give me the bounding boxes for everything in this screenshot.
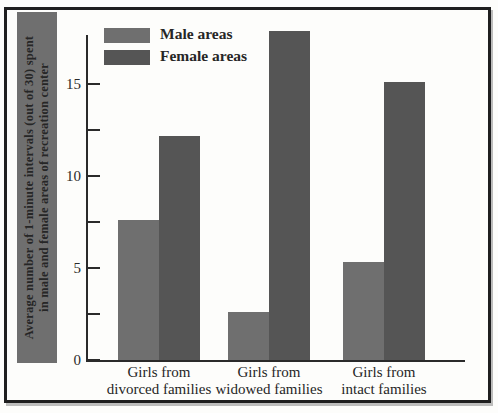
bar-male-areas-girls-from-intact-families <box>343 262 384 360</box>
y-axis-label-strip: Average number of 1-minute intervals (ou… <box>17 12 57 363</box>
y-axis-minor-tick-12.5 <box>88 129 100 131</box>
legend-swatch-female-areas <box>104 50 150 65</box>
y-axis-label: Average number of 1-minute intervals (ou… <box>17 12 57 363</box>
y-axis-label-line-2: in male and female areas of recreation c… <box>37 12 53 363</box>
bar-male-areas-girls-from-widowed-families <box>228 312 269 360</box>
y-axis-minor-tick-7.5 <box>88 221 100 223</box>
bar-female-areas-girls-from-widowed-families <box>269 31 310 360</box>
y-axis-label-line-1: Average number of 1-minute intervals (ou… <box>22 12 38 363</box>
y-axis-minor-tick-2.5 <box>88 313 100 315</box>
bar-male-areas-girls-from-divorced-families <box>118 220 159 360</box>
y-axis-tick-label-0: 0 <box>45 351 81 369</box>
legend-swatch-male-areas <box>104 28 150 43</box>
y-axis-major-tick-0 <box>88 359 100 361</box>
y-axis-major-tick-10 <box>88 175 100 177</box>
x-axis-line <box>86 360 465 362</box>
y-axis-tick-label-10: 10 <box>45 167 81 185</box>
figure-frame: Average number of 1-minute intervals (ou… <box>4 7 491 403</box>
bar-female-areas-girls-from-divorced-families <box>159 136 200 360</box>
figure-page: Average number of 1-minute intervals (ou… <box>0 0 498 413</box>
y-axis-tick-label-15: 15 <box>45 75 81 93</box>
y-axis-major-tick-15 <box>88 83 100 85</box>
x-axis-label-line: intact families <box>309 381 459 398</box>
x-axis-label-line: Girls from <box>309 364 459 381</box>
y-axis-tick-label-5: 5 <box>45 259 81 277</box>
bar-female-areas-girls-from-intact-families <box>384 82 425 360</box>
y-axis-major-tick-5 <box>88 267 100 269</box>
legend-label-male-areas: Male areas <box>160 25 232 43</box>
x-axis-label-girls-from-intact-families: Girls fromintact families <box>309 364 459 398</box>
legend-label-female-areas: Female areas <box>160 47 247 65</box>
